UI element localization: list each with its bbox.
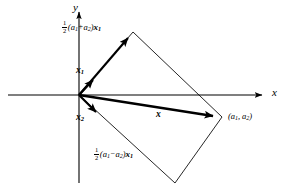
x-axis-label: x [272, 87, 277, 98]
lower-fraction-numerator: 1 [94, 147, 99, 154]
vector-x1-label-sub: 1 [81, 68, 84, 75]
vector-x1-arrow [79, 80, 93, 95]
lower-fraction: 1 2 [94, 147, 99, 162]
coord-close-paren: ) [249, 111, 252, 121]
lower-vector-symbol: x1 [126, 150, 134, 159]
coord-comma: , [238, 111, 240, 121]
lower-term-a: a1 [103, 150, 110, 159]
lower-fraction-denominator: 2 [94, 154, 99, 162]
axes-group [8, 12, 262, 183]
point-coordinates-label: (a1, a2) [228, 112, 252, 121]
vectors-group [79, 38, 213, 116]
vector-x2-label: x2 [76, 113, 84, 123]
upper-fraction: 1 2 [62, 20, 67, 35]
upper-fraction-denominator: 2 [62, 27, 67, 35]
vector-x1-label: x1 [76, 66, 84, 76]
vector-x-label: x [156, 110, 161, 120]
upper-term-b: a2 [83, 23, 90, 32]
upper-vector-sub: 1 [98, 25, 101, 32]
upper-term-a: a1 [71, 23, 78, 32]
upper-expression-label: 1 2 ( a1 + a2 ) x1 [62, 20, 101, 35]
upper-fraction-numerator: 1 [62, 20, 67, 27]
vector-decomposition-figure: y x 1 2 ( a1 + a2 ) x1 1 2 ( a1 − a2 ) x… [0, 0, 291, 190]
y-axis-label: y [73, 2, 78, 13]
vector-x2-label-sub: 2 [81, 115, 84, 122]
lower-expression-label: 1 2 ( a1 − a2 ) x1 [94, 147, 133, 162]
upper-vector-symbol: x1 [94, 23, 102, 32]
lower-term-b: a2 [115, 150, 122, 159]
lower-vector-sub: 1 [130, 152, 133, 159]
figure-canvas [0, 0, 291, 190]
